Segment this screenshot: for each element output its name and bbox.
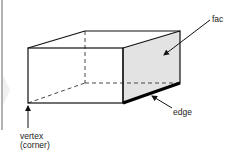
vertex-sublabel: (corner): [20, 141, 50, 150]
chevron-icon: [3, 75, 10, 105]
edge-arrow: [152, 96, 172, 108]
face-label: fac: [212, 15, 223, 24]
edge-label: edge: [173, 108, 192, 117]
